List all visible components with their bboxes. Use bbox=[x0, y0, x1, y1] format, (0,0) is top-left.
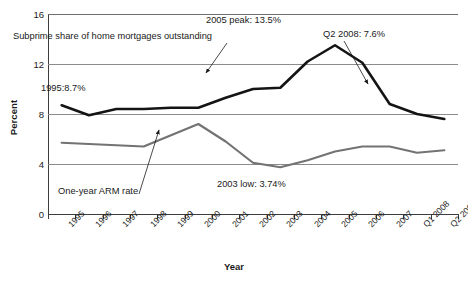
y-tick-label-16: 16 bbox=[33, 9, 44, 20]
x-tick-label-1995: 1995 bbox=[66, 222, 73, 229]
x-tick-label-Q2-2008: Q2 2008 bbox=[448, 222, 455, 229]
y-axis-title: Percent bbox=[8, 88, 19, 148]
x-tick-label-1996: 1996 bbox=[93, 222, 100, 229]
x-tick-label-2005: 2005 bbox=[339, 222, 346, 229]
chart-container: Percent 0481216 199519961997199819992000… bbox=[0, 0, 468, 283]
x-tick-label-2004: 2004 bbox=[312, 222, 319, 229]
annotation-q2-label: Q2 2008: 7.6% bbox=[323, 29, 385, 39]
leader-line-arm bbox=[139, 130, 159, 194]
x-tick-label-2003: 2003 bbox=[284, 222, 291, 229]
annotation-subprime-label: Subprime share of home mortgages outstan… bbox=[13, 31, 212, 41]
leader-line-q2 bbox=[344, 41, 368, 84]
x-tick-label-2000: 2000 bbox=[202, 222, 209, 229]
annotation-first-label: 1995:8.7% bbox=[41, 83, 85, 93]
x-axis-title: Year bbox=[0, 261, 468, 272]
x-tick-label-2002: 2002 bbox=[257, 222, 264, 229]
annotation-peak-label: 2005 peak: 13.5% bbox=[206, 15, 281, 25]
x-tick-label-1998: 1998 bbox=[148, 222, 155, 229]
annotation-arm-label: One-year ARM rate bbox=[58, 186, 138, 196]
x-tick-label-2006: 2006 bbox=[366, 222, 373, 229]
x-tick-label-Q1-2008: Q1 2008 bbox=[421, 222, 428, 229]
leader-line-subprime bbox=[206, 43, 227, 73]
y-tick-label-12: 12 bbox=[33, 59, 44, 70]
x-tick-label-2007: 2007 bbox=[394, 222, 401, 229]
y-tick-label-0: 0 bbox=[39, 209, 44, 220]
y-tick-label-4: 4 bbox=[39, 159, 44, 170]
x-tick-label-1999: 1999 bbox=[175, 222, 182, 229]
x-tick-label-1997: 1997 bbox=[120, 222, 127, 229]
annotation-low-label: 2003 low: 3.74% bbox=[217, 179, 286, 189]
x-tick-mark-0 bbox=[48, 214, 49, 219]
x-tick-label-2001: 2001 bbox=[230, 222, 237, 229]
y-tick-label-8: 8 bbox=[39, 109, 44, 120]
